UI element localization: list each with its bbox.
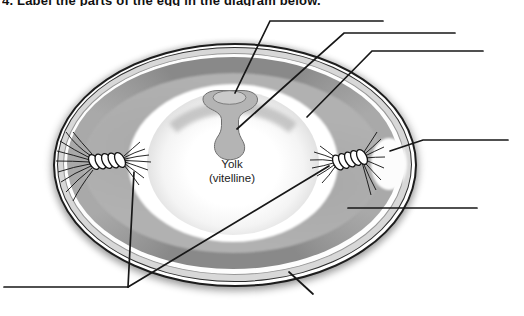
right-chalaza-fibers-inner — [310, 146, 336, 183]
left-chalaza-twist — [86, 151, 127, 171]
egg-diagram: Yolk (vitelline) — [0, 0, 524, 316]
yolk-label-line1: Yolk — [176, 158, 288, 172]
air-cell — [371, 138, 407, 190]
leader-blank-top-3-inner-albumen — [307, 51, 483, 117]
germinal-disc — [213, 91, 246, 105]
left-chalaza-fibers-outer — [56, 132, 93, 201]
leader-blank-top-1-germinal-disc — [235, 21, 383, 93]
worksheet-page: 4. Label the parts of the egg in the dia… — [0, 0, 524, 316]
right-chalaza — [310, 132, 385, 195]
leader-blank-right-air-cell — [390, 140, 508, 151]
yolk-label: Yolk (vitelline) — [176, 158, 288, 185]
yolk-label-line2: (vitelline) — [176, 172, 288, 186]
left-chalaza-fibers-inner — [124, 142, 151, 185]
pointer-bottom-shell — [289, 272, 313, 294]
left-chalaza — [56, 132, 151, 201]
leader-bottom-left-to-left-chalaza — [128, 172, 134, 287]
